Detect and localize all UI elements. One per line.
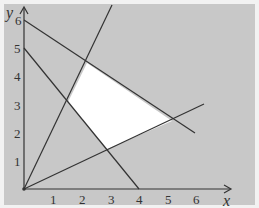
- y-tick-2: 2: [14, 126, 21, 141]
- x-tick-3: 3: [108, 192, 115, 207]
- x-tick-5: 5: [165, 192, 172, 207]
- y-tick-5: 5: [14, 41, 21, 56]
- diagram-canvas: y x 1 2 3 4 5 6 1 2 3 4 5 6: [0, 0, 259, 208]
- origin-point: [22, 187, 26, 191]
- x-tick-6: 6: [193, 192, 200, 207]
- y-tick-3: 3: [14, 98, 21, 113]
- x-tick-4: 4: [136, 192, 143, 207]
- x-tick-1: 1: [50, 192, 57, 207]
- x-tick-2: 2: [79, 192, 86, 207]
- y-tick-6: 6: [15, 13, 22, 28]
- y-tick-1: 1: [14, 154, 21, 169]
- y-tick-4: 4: [14, 69, 21, 84]
- x-axis-label: x: [222, 192, 230, 208]
- y-axis-label: y: [4, 4, 14, 22]
- coordinate-plane: y x 1 2 3 4 5 6 1 2 3 4 5 6: [0, 0, 259, 208]
